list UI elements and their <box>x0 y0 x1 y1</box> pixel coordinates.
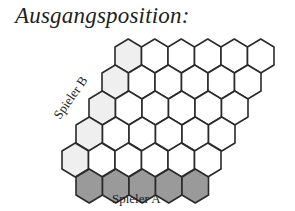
hex-grid <box>62 39 274 203</box>
player-b-label: Spieler B <box>50 73 90 122</box>
player-b-text: Spieler B <box>50 73 90 122</box>
hex-cell-player-a <box>182 169 209 203</box>
player-a-label: Spieler A <box>112 191 161 206</box>
hex-board: Spieler A Spieler B <box>0 0 295 211</box>
player-a-text: Spieler A <box>112 191 161 206</box>
hex-cell-player-a <box>76 169 103 203</box>
